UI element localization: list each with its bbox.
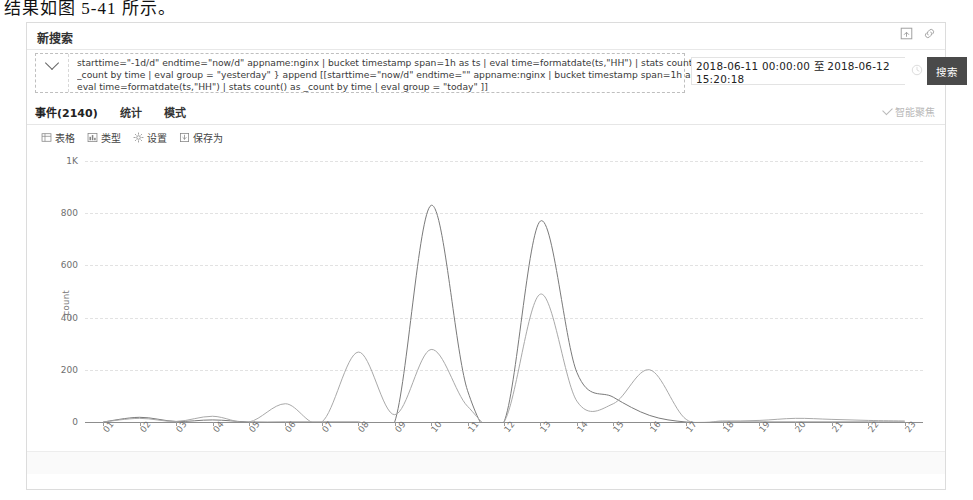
series-line-today <box>103 205 905 422</box>
spl-query-line-2: _count by time | eval group = "yesterday… <box>77 69 713 81</box>
panel-header: 新搜索 <box>27 23 945 50</box>
y-axis-tick: 0 <box>72 417 78 427</box>
share-link-icon[interactable] <box>923 27 936 40</box>
panel-footer-strip <box>27 451 945 474</box>
chart-type-icon <box>87 132 98 143</box>
page-title: 新搜索 <box>37 29 73 46</box>
table-icon <box>41 132 52 143</box>
y-axis-tick: 400 <box>61 313 78 323</box>
search-panel: 新搜索 starttime="-1d <box>26 22 946 490</box>
check-icon <box>882 105 893 116</box>
chart-container: _count 02004006008001K010203040506070809… <box>27 149 945 474</box>
clock-icon[interactable] <box>911 64 923 76</box>
spl-query-box[interactable]: starttime="-1d/d" endtime="now/d" appnam… <box>35 53 685 93</box>
chart-plot-area[interactable]: 02004006008001K0102030405060708091011121… <box>85 161 923 422</box>
smart-focus-label: 智能聚焦 <box>895 104 935 119</box>
save-search-icon[interactable] <box>900 27 913 40</box>
toolbar-table-button[interactable]: 表格 <box>41 130 75 145</box>
gear-icon <box>133 132 144 143</box>
time-range-picker[interactable]: 2018-06-11 00:00:00 至 2018-06-12 15:20:1… <box>691 57 905 85</box>
series-line-yesterday <box>103 294 905 422</box>
y-axis-tick: 600 <box>61 260 78 270</box>
toolbar-save-as-button[interactable]: 保存为 <box>179 130 223 145</box>
expand-query-button[interactable] <box>36 54 69 92</box>
tab-statistics[interactable]: 统计 <box>120 104 142 120</box>
search-bar-row: starttime="-1d/d" endtime="now/d" appnam… <box>27 50 945 99</box>
toolbar-settings-label: 设置 <box>147 130 167 145</box>
tab-events[interactable]: 事件(2140) <box>35 104 98 120</box>
toolbar-type-label: 类型 <box>101 130 121 145</box>
chevron-down-icon <box>45 56 59 70</box>
smart-focus-toggle[interactable]: 智能聚焦 <box>883 104 935 119</box>
toolbar-table-label: 表格 <box>55 130 75 145</box>
spl-query-line-1: starttime="-1d/d" endtime="now/d" appnam… <box>77 57 713 69</box>
chart-series-svg <box>85 161 923 422</box>
document-caption: 结果如图 5-41 所示。 <box>4 0 176 19</box>
toolbar-save-as-label: 保存为 <box>193 130 223 145</box>
y-axis-tick: 1K <box>66 156 78 166</box>
save-as-icon <box>179 132 190 143</box>
header-icon-group <box>900 27 936 40</box>
spl-query-text[interactable]: starttime="-1d/d" endtime="now/d" appnam… <box>69 54 719 92</box>
y-axis-tick: 800 <box>61 208 78 218</box>
toolbar-type-button[interactable]: 类型 <box>87 130 121 145</box>
y-axis-tick: 200 <box>61 365 78 375</box>
chart-toolbar: 表格 类型 <box>27 125 945 149</box>
search-button[interactable]: 搜索 <box>927 57 967 85</box>
toolbar-settings-button[interactable]: 设置 <box>133 130 167 145</box>
result-tabs: 事件(2140) 统计 模式 智能聚焦 <box>27 99 945 125</box>
tab-patterns[interactable]: 模式 <box>164 104 186 120</box>
spl-query-line-3: eval time=formatdate(ts,"HH") | stats co… <box>77 81 713 93</box>
